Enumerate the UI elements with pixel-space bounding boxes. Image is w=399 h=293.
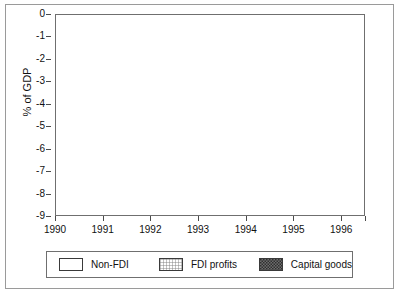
x-tick-mark [246,216,247,221]
y-tick-label: -1 [36,31,45,41]
y-axis: % of GDP 0-1-2-3-4-5-6-7-8-9 [0,14,53,216]
y-tick-label: -8 [36,189,45,199]
plot-border [55,14,365,216]
x-tick-mark [150,216,151,221]
x-tick-label: 1995 [282,224,304,235]
legend-label-capital-goods: Capital goods [291,259,352,270]
x-tick-label: 1994 [235,224,257,235]
y-tick-label: 0 [39,9,45,19]
y-tick-label: -4 [36,99,45,109]
x-tick-mark [103,216,104,221]
x-tick-label: 1996 [330,224,352,235]
legend-item-non-fdi: Non-FDI [47,258,147,271]
capital-goods-swatch [259,258,283,271]
y-tick-mark [46,36,51,37]
legend-label-fdi-profits: FDI profits [191,259,237,270]
legend-item-capital-goods: Capital goods [247,258,352,271]
x-tick-mark [198,216,199,221]
y-tick-mark [46,171,51,172]
y-tick-mark [46,126,51,127]
y-tick-label: -9 [36,211,45,221]
legend-label-non-fdi: Non-FDI [91,259,129,270]
y-tick-mark [46,104,51,105]
x-tick-label: 1990 [44,224,66,235]
y-tick-mark [46,216,51,217]
y-tick-label: -5 [36,121,45,131]
y-tick-label: -2 [36,54,45,64]
y-tick-mark [46,14,51,15]
x-tick-label: 1992 [139,224,161,235]
x-tick-mark [55,216,56,221]
x-tick-mark [341,216,342,221]
x-axis: 1990199119921993199419951996 [55,216,365,238]
legend-item-fdi-profits: FDI profits [147,258,247,271]
y-tick-mark [46,149,51,150]
chart-figure: % of GDP 0-1-2-3-4-5-6-7-8-9 [0,0,399,293]
y-tick-mark [46,81,51,82]
x-tick-label: 1991 [92,224,114,235]
x-tick-mark [365,216,366,221]
fdi-profits-swatch [159,258,183,271]
y-axis-title: % of GDP [21,49,33,135]
x-tick-label: 1993 [187,224,209,235]
y-tick-label: -7 [36,166,45,176]
y-tick-mark [46,59,51,60]
y-tick-label: -6 [36,144,45,154]
y-tick-label: -3 [36,76,45,86]
x-tick-mark [293,216,294,221]
non-fdi-swatch [59,258,83,271]
y-tick-mark [46,194,51,195]
legend: Non-FDI FDI profits Capital goods [46,251,353,278]
plot-area [55,14,365,216]
